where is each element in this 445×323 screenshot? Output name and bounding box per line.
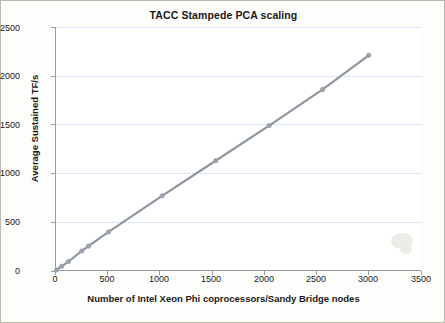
- x-tickmark-3500: [421, 271, 422, 275]
- y-tick-label-2000: 2000: [0, 71, 20, 81]
- x-tickmark-500: [107, 271, 108, 275]
- x-tick-label-1500: 1500: [189, 274, 233, 284]
- y-tick-label-500: 500: [0, 217, 20, 227]
- chart-title: TACC Stampede PCA scaling: [1, 9, 445, 21]
- x-tick-label-2500: 2500: [294, 274, 338, 284]
- x-tick-label-0: 0: [33, 274, 77, 284]
- paper-smudge-2: [400, 245, 412, 254]
- y-tick-label-0: 0: [0, 266, 20, 276]
- x-tick-label-2000: 2000: [242, 274, 286, 284]
- x-tick-label-3000: 3000: [346, 274, 390, 284]
- x-tick-label-3500: 3500: [399, 274, 443, 284]
- x-tick-label-1000: 1000: [137, 274, 181, 284]
- y-tick-label-1500: 1500: [0, 120, 20, 130]
- x-tickmark-1500: [212, 271, 213, 275]
- y-axis-title: Average Sustained TF/s: [29, 34, 40, 224]
- x-axis-title: Number of Intel Xeon Phi coprocessors/Sa…: [1, 293, 445, 304]
- x-tick-label-500: 500: [85, 274, 129, 284]
- x-tickmark-3000: [368, 271, 369, 275]
- x-tickmark-2500: [316, 271, 317, 275]
- x-tickmark-2000: [264, 271, 265, 275]
- x-tickmark-1000: [159, 271, 160, 275]
- y-tick-label-1000: 1000: [0, 168, 20, 178]
- y-tick-label-2500: 2500: [0, 23, 20, 33]
- data-series-line: [55, 27, 421, 271]
- chart-container: TACC Stampede PCA scaling 2500 2000 1500…: [0, 0, 445, 323]
